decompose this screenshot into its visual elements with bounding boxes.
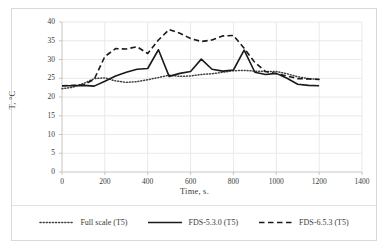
gridlines (62, 22, 362, 172)
y-tick-30: 30 (33, 55, 55, 64)
y-tick-5: 5 (33, 148, 55, 157)
x-tick-1200: 1200 (299, 177, 339, 186)
legend-label-fds-530: FDS-5.3.0 (T5) (188, 218, 238, 227)
x-tick-1000: 1000 (256, 177, 296, 186)
x-tick-600: 600 (171, 177, 211, 186)
y-tick-25: 25 (33, 73, 55, 82)
legend-item-fds-653[interactable]: FDS-6.5.3 (T5) (258, 218, 349, 227)
y-tick-0: 0 (33, 167, 55, 176)
x-axis-title: Time, s. (0, 186, 389, 196)
legend-label-fds-653: FDS-6.5.3 (T5) (299, 218, 349, 227)
legend-item-full-scale[interactable]: Full scale (T5) (39, 218, 127, 227)
y-tick-40: 40 (33, 17, 55, 26)
chart-figure: 0510152025303540 02004006008001000120014… (0, 0, 389, 252)
x-tick-800: 800 (213, 177, 253, 186)
legend-swatch-solid (147, 218, 183, 227)
legend-swatch-dotted (39, 218, 75, 227)
y-tick-15: 15 (33, 111, 55, 120)
y-tick-35: 35 (33, 36, 55, 45)
x-tick-200: 200 (85, 177, 125, 186)
x-tick-1400: 1400 (342, 177, 382, 186)
y-tick-20: 20 (33, 92, 55, 101)
tick-marks (59, 22, 362, 175)
plot-container: 0510152025303540 02004006008001000120014… (0, 0, 389, 252)
legend-item-fds-530[interactable]: FDS-5.3.0 (T5) (147, 218, 238, 227)
legend-divider (12, 205, 376, 206)
legend-label-full-scale: Full scale (T5) (80, 218, 127, 227)
x-tick-400: 400 (128, 177, 168, 186)
chart-legend: Full scale (T5) FDS-5.3.0 (T5) FDS-6.5.3… (12, 211, 376, 233)
y-axis-title: T, °C (7, 70, 17, 130)
x-tick-0: 0 (42, 177, 82, 186)
y-tick-10: 10 (33, 130, 55, 139)
legend-swatch-dashed (258, 218, 294, 227)
